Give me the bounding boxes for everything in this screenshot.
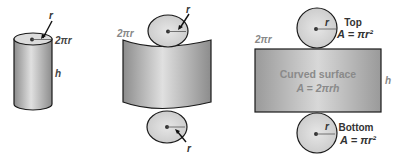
cylinder-body — [14, 39, 52, 110]
net-height-label: h — [385, 75, 391, 86]
net-bottom-formula: A = πr² — [339, 134, 376, 146]
curved-surface-sheet — [123, 40, 211, 109]
unrolled-cylinder — [123, 14, 211, 143]
curved-surface-name: Curved surface — [280, 68, 357, 80]
curved-surface-formula: A = 2πrh — [296, 82, 340, 94]
unrolled-circumference-label: 2πr — [116, 28, 135, 39]
unrolled-bottom-radius-label: r — [187, 143, 192, 154]
curved-surface-rectangle — [255, 49, 381, 112]
net-bottom-name: Bottom — [339, 122, 374, 133]
unrolled-top-radius-label: r — [186, 4, 191, 15]
cylinder-circumference-label: 2πr — [54, 35, 73, 46]
net-circumference-label: 2πr — [254, 34, 273, 45]
net-top-name: Top — [344, 17, 362, 28]
cylinder-3d — [14, 21, 52, 110]
net-top-formula: A = πr² — [336, 28, 373, 40]
cylinder-height-label: h — [55, 68, 61, 79]
cylinder-net-diagram: r 2πr h 2πr r r r r Top A = πr² Bottom A… — [0, 0, 393, 157]
cylinder-radius-label: r — [49, 10, 54, 21]
